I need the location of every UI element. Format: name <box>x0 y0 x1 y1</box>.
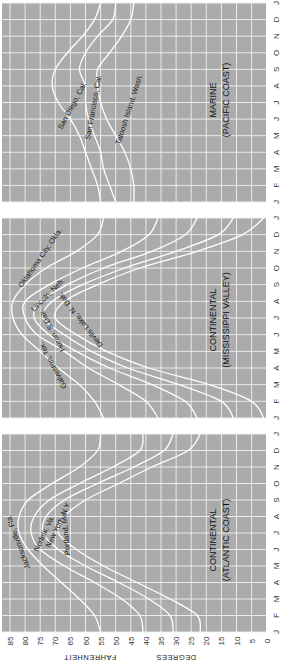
month-label: J <box>272 1 281 5</box>
month-label: F <box>272 399 281 404</box>
month-label: S <box>272 497 281 502</box>
axis-title-degrees: DEGREES <box>156 653 196 662</box>
temperature-tick: 20 <box>202 636 211 645</box>
temperature-tick: 40 <box>142 636 151 645</box>
month-label: M <box>272 381 281 388</box>
month-label: J <box>272 630 281 634</box>
temperature-tick: 65 <box>66 636 75 645</box>
month-label: M <box>272 132 281 139</box>
temperature-axis: 8580757065605550454035302520151050 <box>6 636 272 645</box>
month-label: O <box>272 50 281 56</box>
month-label: A <box>272 513 281 519</box>
month-label: J <box>272 333 281 337</box>
month-label: F <box>272 613 281 618</box>
temperature-tick: 35 <box>157 636 166 645</box>
month-label: J <box>272 432 281 436</box>
temperature-tick: 10 <box>233 636 242 645</box>
month-label: M <box>272 348 281 355</box>
month-label: J <box>272 416 281 420</box>
month-label: D <box>272 232 281 238</box>
month-label: F <box>272 183 281 188</box>
temperature-tick: 80 <box>21 636 30 645</box>
temperature-tick: 15 <box>217 636 226 645</box>
month-label: A <box>272 149 281 155</box>
month-label: D <box>272 447 281 453</box>
month-label: A <box>272 298 281 304</box>
month-label: S <box>272 67 281 72</box>
month-label: M <box>272 595 281 602</box>
month-label: M <box>272 562 281 569</box>
month-label: A <box>272 365 281 371</box>
temperature-tick: 5 <box>248 638 257 643</box>
marine-title-line2: (PACIFIC COAST) <box>221 63 231 137</box>
month-label: N <box>272 33 281 39</box>
month-label: J <box>272 200 281 204</box>
axis-title-fahrenheit: FAHRENHEIT <box>64 653 117 662</box>
atlantic-title-line2: (ATLANTIC COAST) <box>221 499 231 581</box>
marine-title-line1: MARINE <box>208 82 218 117</box>
temperature-tick: 70 <box>51 636 60 645</box>
panel-marine: JFMAMJJASONDJ <box>2 1 281 204</box>
month-label: J <box>272 531 281 535</box>
month-label: N <box>272 464 281 470</box>
month-label: J <box>272 101 281 105</box>
temperature-chart: JFMAMJJASONDJJFMAMJJASONDJJFMAMJJASONDJ … <box>0 0 290 671</box>
month-label: A <box>272 83 281 89</box>
temperature-tick: 55 <box>97 636 106 645</box>
month-label: J <box>272 117 281 121</box>
temperature-tick: 0 <box>263 638 272 643</box>
temperature-tick: 60 <box>82 636 91 645</box>
temperature-tick: 50 <box>112 636 121 645</box>
month-label: O <box>272 480 281 486</box>
temperature-tick: 75 <box>36 636 45 645</box>
month-label: O <box>272 265 281 271</box>
mississippi-title-line2: (MISSISSIPPI VALLEY) <box>221 272 231 367</box>
month-label: N <box>272 248 281 254</box>
month-label: S <box>272 282 281 287</box>
temperature-tick: 30 <box>172 636 181 645</box>
month-label: J <box>272 216 281 220</box>
month-label: J <box>272 548 281 552</box>
temperature-tick: 25 <box>187 636 196 645</box>
atlantic-title-line1: CONTINENTAL <box>208 509 218 572</box>
month-label: M <box>272 165 281 172</box>
month-label: J <box>272 316 281 320</box>
month-label: D <box>272 16 281 22</box>
temperature-tick: 45 <box>127 636 136 645</box>
temperature-tick: 85 <box>6 636 15 645</box>
month-label: A <box>272 579 281 585</box>
mississippi-title-line1: CONTINENTAL <box>208 289 218 352</box>
